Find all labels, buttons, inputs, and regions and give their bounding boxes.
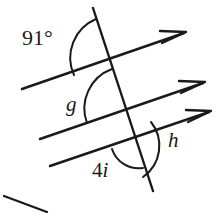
parallel-arrow-icon-middle: [179, 81, 205, 93]
angle-label-4i-coefficient: 4: [92, 158, 103, 182]
angle-arc-4i: [112, 149, 143, 168]
parallel-arrow-icon-bottom: [186, 110, 211, 122]
angle-label-g: g: [66, 94, 77, 115]
angle-label-h: h: [168, 130, 179, 151]
stray-mark: [4, 196, 47, 212]
angle-label-4i: 4i: [92, 160, 108, 181]
angle-label-4i-variable: i: [103, 158, 109, 182]
geometry-figure: 91° g 4i h: [0, 0, 218, 213]
angle-label-91-degrees: 91°: [22, 27, 53, 49]
parallel-arrow-icon-top: [160, 31, 186, 43]
